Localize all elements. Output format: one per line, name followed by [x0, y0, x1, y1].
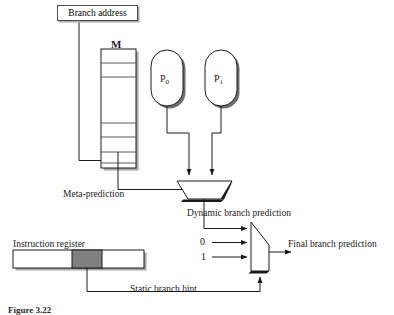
predictor-0-subscript: 0: [166, 78, 170, 86]
final-branch-prediction-label: Final branch prediction: [288, 240, 377, 250]
meta-table-label: M: [111, 39, 121, 50]
wire-predictor-1-to-mux: [212, 106, 221, 175]
figure-caption: Figure 3.22: [8, 306, 51, 315]
branch-address-label: Branch address: [58, 6, 137, 20]
predictor-1-subscript: 1: [220, 78, 224, 86]
instruction-register-label: Instruction register: [13, 240, 85, 250]
mux-final-input-0-label: 0: [200, 237, 205, 247]
wire-predictor-0-to-mux: [167, 106, 189, 175]
mux-final-body: [251, 222, 269, 271]
predictor-0-label: P0: [160, 74, 169, 86]
figure-canvas: Branch address M P0 P1 Meta-prediction D…: [0, 0, 394, 315]
meta-prediction-label: Meta-prediction: [63, 190, 124, 200]
dynamic-branch-prediction-label: Dynamic branch prediction: [187, 209, 291, 219]
static-branch-hint-label: Static branch hint: [130, 285, 197, 295]
instruction-register-shaded-field: [72, 250, 102, 268]
mux-final-input-1-label: 1: [201, 252, 206, 262]
branch-prediction-diagram: [0, 0, 394, 315]
meta-table: [101, 49, 136, 168]
branch-address-box: Branch address: [57, 5, 138, 21]
instruction-register-box: [13, 250, 144, 268]
predictor-1-label: P1: [214, 74, 223, 86]
